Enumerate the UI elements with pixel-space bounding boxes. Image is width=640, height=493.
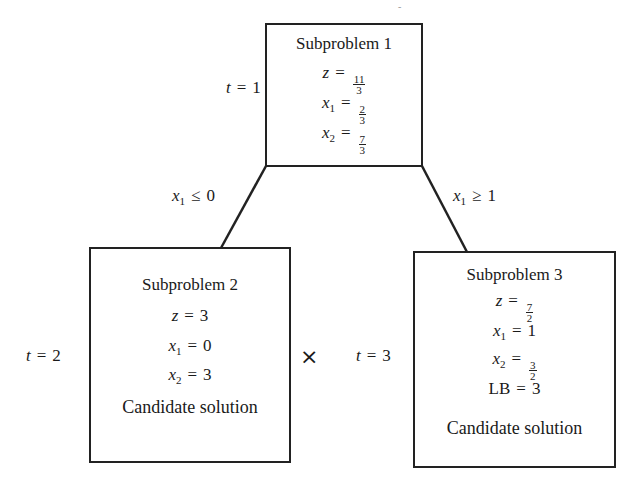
x-symbol: x: [168, 336, 176, 355]
pruned-cross-icon: ×: [300, 344, 318, 369]
x-symbol: x: [168, 365, 176, 384]
eq-sign: =: [508, 291, 518, 310]
t-label-3: t=3: [356, 346, 391, 366]
node-subproblem-1: Subproblem 1 z=113 x1=23 x2=73: [265, 23, 423, 167]
t-label-2: t=2: [26, 346, 61, 366]
x1-value-row: x1=1: [415, 321, 614, 342]
t-value: 2: [52, 346, 61, 365]
x-symbol: x: [172, 186, 180, 205]
t-symbol: t: [26, 346, 31, 365]
t-value: 1: [252, 78, 261, 97]
x2-fraction: 73: [359, 134, 367, 155]
z-symbol: z: [323, 63, 330, 82]
x1-value-row: x1=23: [267, 93, 421, 125]
eq-sign: =: [511, 349, 521, 368]
x2-value-row: x2=3: [91, 365, 289, 386]
denominator: 3: [360, 145, 366, 155]
edge-label-right: x1≥1: [453, 186, 496, 207]
eq-sign: =: [516, 379, 526, 398]
x1-value-row: x1=0: [91, 336, 289, 357]
edge-label-left: x1≤0: [172, 186, 215, 207]
subscript: 2: [500, 358, 506, 370]
eq-sign: =: [341, 123, 351, 142]
edge-left: [221, 166, 266, 248]
x-symbol: x: [453, 186, 461, 205]
eq-sign: =: [237, 78, 247, 97]
x2-value-row: x2=32: [415, 349, 614, 381]
z-symbol: z: [172, 306, 179, 325]
z-symbol: z: [496, 291, 503, 310]
subscript: 1: [180, 195, 186, 207]
x-symbol: x: [492, 349, 500, 368]
x2-value-row: x2=73: [267, 123, 421, 155]
subscript: 1: [500, 330, 506, 342]
eq-sign: =: [367, 346, 377, 365]
subscript: 1: [329, 102, 335, 114]
t-value: 3: [382, 346, 391, 365]
lb-value: 3: [532, 379, 541, 398]
subscript: 1: [461, 195, 467, 207]
z-fraction: 72: [526, 302, 534, 323]
z-value-row: z=113: [267, 63, 421, 95]
node-subproblem-3: Subproblem 3 z=72 x1=1 x2=32 LB=3 Candid…: [413, 251, 616, 468]
eq-sign: =: [335, 63, 345, 82]
eq-sign: =: [512, 321, 522, 340]
node-title: Subproblem 2: [91, 275, 289, 295]
subscript: 2: [329, 132, 335, 144]
status-label: Candidate solution: [91, 397, 289, 418]
subscript: 2: [176, 374, 182, 386]
node-title: Subproblem 1: [267, 34, 421, 54]
stray-mark: -: [398, 1, 401, 12]
node-title: Subproblem 3: [415, 265, 614, 285]
x2-value: 3: [203, 365, 212, 384]
x1-fraction: 23: [359, 104, 367, 125]
lb-label: LB: [489, 379, 511, 398]
z-fraction: 113: [353, 74, 366, 95]
x1-value: 0: [203, 336, 212, 355]
eq-sign: =: [187, 365, 197, 384]
status-label: Candidate solution: [415, 418, 614, 439]
node-subproblem-2: Subproblem 2 z=3 x1=0 x2=3 Candidate sol…: [89, 247, 291, 463]
z-value: 3: [200, 306, 209, 325]
x2-fraction: 32: [529, 360, 537, 381]
eq-sign: =: [341, 93, 351, 112]
leq-sign: ≤: [191, 186, 200, 205]
bound-value: 0: [206, 186, 215, 205]
edge-right: [422, 166, 467, 252]
z-value-row: z=3: [91, 306, 289, 326]
subscript: 1: [176, 345, 182, 357]
t-symbol: t: [226, 78, 231, 97]
x1-value: 1: [528, 321, 537, 340]
eq-sign: =: [37, 346, 47, 365]
eq-sign: =: [187, 336, 197, 355]
t-symbol: t: [356, 346, 361, 365]
bound-value: 1: [487, 186, 496, 205]
z-value-row: z=72: [415, 291, 614, 323]
lower-bound-row: LB=3: [415, 379, 614, 399]
eq-sign: =: [184, 306, 194, 325]
t-label-1: t=1: [226, 78, 261, 98]
geq-sign: ≥: [472, 186, 481, 205]
